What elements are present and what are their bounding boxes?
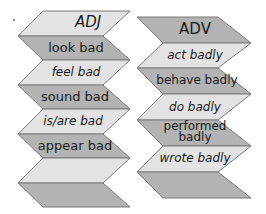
adj-adv-zigzag-diagram: ADJ look bad feel bad sound bad is/are b… xyxy=(0,0,266,214)
adv-item-performed-badly-text: performed badly xyxy=(164,119,227,144)
adj-band-blank-light xyxy=(18,158,130,183)
adv-item-performed-badly: performed badly xyxy=(150,121,240,143)
adv-item-do-badly: do badly xyxy=(150,101,240,113)
adj-band-blank-dark xyxy=(18,183,130,207)
adj-header-label: ADJ xyxy=(50,15,126,30)
decorative-dot xyxy=(13,19,15,21)
adj-item-appear-bad: appear bad xyxy=(30,139,120,152)
adj-item-look-bad: look bad xyxy=(36,41,116,54)
adj-item-sound-bad: sound bad xyxy=(30,90,120,103)
adv-item-wrote-badly: wrote badly xyxy=(150,152,240,164)
adv-item-act-badly: act badly xyxy=(150,49,240,61)
adv-band-blank-dark xyxy=(137,172,251,198)
adv-item-behave-badly: behave badly xyxy=(147,74,247,86)
adv-header-label: ADV xyxy=(155,22,235,37)
adj-item-feel-bad: feel bad xyxy=(36,66,116,78)
adj-item-is-are-bad: is/are bad xyxy=(30,115,116,127)
